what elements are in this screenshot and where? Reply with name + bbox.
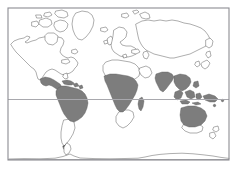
lesser-antilles-range	[79, 85, 83, 89]
world-map-canvas	[0, 0, 238, 177]
mediterranean-islets	[123, 54, 127, 58]
arctic-islet-b	[36, 15, 42, 18]
world-distribution-figure	[0, 0, 238, 177]
ireland	[104, 40, 108, 44]
